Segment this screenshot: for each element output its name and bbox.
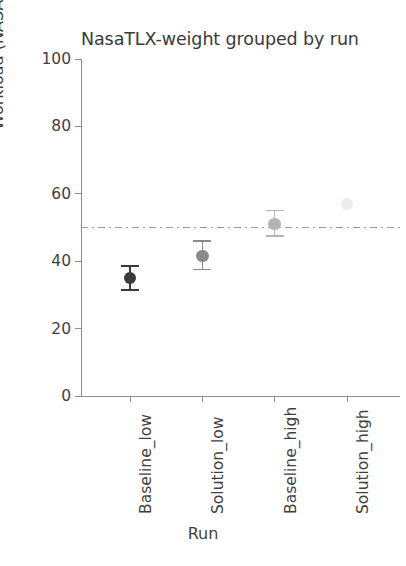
- marker-Solution_low: [196, 250, 208, 262]
- x-tick-Baseline_high: [274, 396, 275, 402]
- y-tick-20: [75, 328, 81, 329]
- x-tick-label-Baseline_high: Baseline_high: [282, 407, 300, 514]
- x-tick-Solution_low: [202, 396, 203, 402]
- chart-title: NasaTLX-weight grouped by run: [81, 28, 406, 50]
- y-tick-label-100: 100: [41, 50, 71, 68]
- y-tick-label-0: 0: [61, 387, 71, 405]
- reference-line: [81, 227, 400, 229]
- y-tick-label-60: 60: [51, 185, 71, 203]
- error-bar-cap-upper-Baseline_high: [266, 210, 284, 212]
- x-tick-label-Solution_low: Solution_low: [209, 417, 227, 514]
- y-tick-60: [75, 193, 81, 194]
- x-tick-Baseline_low: [130, 396, 131, 402]
- x-tick-label-Baseline_low: Baseline_low: [137, 414, 155, 514]
- y-axis-title: Workload (NASA-TLX): [0, 0, 7, 130]
- marker-Solution_high: [341, 198, 353, 210]
- marker-Baseline_high: [268, 218, 280, 230]
- x-tick-Solution_high: [347, 396, 348, 402]
- x-axis-title: Run: [0, 524, 406, 543]
- error-bar-cap-upper-Solution_low: [193, 240, 211, 242]
- y-tick-label-80: 80: [51, 117, 71, 135]
- y-tick-label-20: 20: [51, 320, 71, 338]
- y-tick-40: [75, 261, 81, 262]
- error-bar-cap-lower-Baseline_high: [266, 235, 284, 237]
- x-tick-label-Solution_high: Solution_high: [354, 409, 372, 514]
- y-tick-80: [75, 126, 81, 127]
- marker-Baseline_low: [124, 272, 136, 284]
- y-tick-label-40: 40: [51, 252, 71, 270]
- chart-figure: NasaTLX-weight grouped by run Workload (…: [0, 0, 406, 566]
- error-bar-cap-lower-Solution_low: [193, 269, 211, 271]
- error-bar-cap-lower-Baseline_low: [121, 289, 139, 291]
- error-bar-cap-upper-Baseline_low: [121, 265, 139, 267]
- y-tick-0: [75, 396, 81, 397]
- y-tick-100: [75, 59, 81, 60]
